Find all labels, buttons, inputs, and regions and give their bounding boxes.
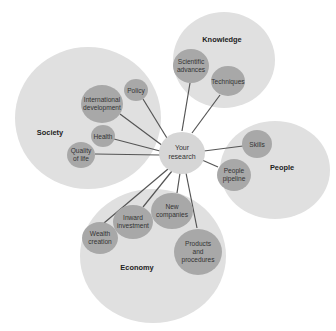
node-scientific-advances[interactable]: Scientific advances <box>173 49 209 83</box>
new-companies-label-line2: companies <box>156 211 189 219</box>
inward-investment-label-line1: Inward <box>123 214 143 221</box>
quality-of-life-label-line2: of life <box>73 155 89 162</box>
your-research-label-line2: research <box>168 153 195 160</box>
products-and-procedures-label-line3: procedures <box>182 256 216 264</box>
inward-investment-label-line2: investment <box>117 222 149 229</box>
node-international-development[interactable]: International development <box>81 85 123 123</box>
your-research-label-line1: Your <box>175 144 190 151</box>
node-inward-investment[interactable]: Inward investment <box>113 205 153 239</box>
people-pipeline-label-line1: People <box>224 167 245 175</box>
node-health[interactable]: Health <box>91 125 115 147</box>
quality-of-life-label-line1: Quality <box>71 147 92 155</box>
connector-people-pipeline <box>202 160 218 167</box>
society-label: Society <box>37 128 64 137</box>
node-skills[interactable]: Skills <box>242 130 272 158</box>
scientific-advances-label-line1: Scientific <box>178 58 205 65</box>
node-wealth-creation[interactable]: Wealth creation <box>82 222 118 254</box>
international-development-label-line1: International <box>84 96 121 103</box>
wealth-creation-label-line1: Wealth <box>90 230 111 237</box>
health-label: Health <box>93 133 112 140</box>
node-policy[interactable]: Policy <box>124 79 148 101</box>
international-development-label-line2: development <box>83 104 121 112</box>
node-new-companies[interactable]: New companies <box>151 193 193 229</box>
people-pipeline-label-line2: pipeline <box>223 175 246 183</box>
impact-diagram: Policy International development Health … <box>0 0 336 331</box>
techniques-label: Techniques <box>211 78 245 86</box>
economy-label: Economy <box>120 263 154 272</box>
people-label: People <box>270 163 294 172</box>
products-and-procedures-label-line1: Products <box>185 240 212 247</box>
node-products-and-procedures[interactable]: Products and procedures <box>174 229 222 275</box>
node-quality-of-life[interactable]: Quality of life <box>67 142 95 168</box>
policy-label: Policy <box>127 87 145 95</box>
products-and-procedures-label-line2: and <box>192 248 203 255</box>
knowledge-label: Knowledge <box>202 35 241 44</box>
skills-label: Skills <box>249 141 265 148</box>
wealth-creation-label-line2: creation <box>88 238 112 245</box>
node-people-pipeline[interactable]: People pipeline <box>217 159 251 191</box>
connector-new-companies <box>177 173 180 193</box>
node-your-research[interactable]: Your research <box>159 132 205 174</box>
new-companies-label-line1: New <box>165 203 178 210</box>
scientific-advances-label-line2: advances <box>177 66 206 73</box>
